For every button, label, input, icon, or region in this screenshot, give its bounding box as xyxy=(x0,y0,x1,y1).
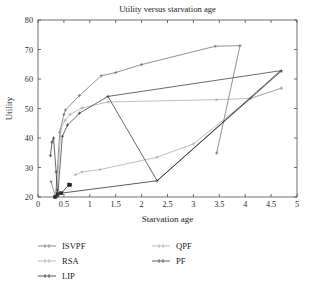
y-tick-label: 80 xyxy=(25,16,33,25)
series-line-rsa xyxy=(57,88,282,197)
chart-legend: ISVPFQPFRSAPFLIP xyxy=(38,241,192,281)
data-point-marker xyxy=(140,63,143,66)
legend-label-isvpf: ISVPF xyxy=(62,241,86,251)
data-point-marker xyxy=(156,156,159,159)
x-tick-label: 1 xyxy=(88,200,92,209)
x-tick-label: 2.5 xyxy=(162,200,172,209)
data-point-marker xyxy=(80,106,83,109)
data-point-marker xyxy=(238,44,241,47)
data-point-marker xyxy=(215,98,218,101)
x-tick-label: 5 xyxy=(295,200,299,209)
data-point-marker xyxy=(114,71,117,74)
series-branch-pf-upper-branch xyxy=(108,71,280,97)
data-point-marker xyxy=(214,45,217,48)
series-line-pf xyxy=(50,71,281,196)
data-point-marker xyxy=(215,151,218,154)
data-point-marker xyxy=(61,135,64,138)
legend-item-isvpf[interactable]: ISVPF xyxy=(38,241,86,251)
series-branch-lip-lower-branch xyxy=(61,71,280,193)
x-tick-label: 0.5 xyxy=(59,200,69,209)
legend-item-rsa[interactable]: RSA xyxy=(38,256,80,266)
legend-label-lip: LIP xyxy=(62,271,75,281)
chart-title: Utility versus starvation age xyxy=(119,4,216,14)
y-axis-title: Utility xyxy=(4,96,14,120)
data-point-marker xyxy=(62,113,65,116)
data-point-marker xyxy=(63,119,66,122)
y-tick-label: 30 xyxy=(25,164,33,173)
x-tick-label: 1.5 xyxy=(111,200,121,209)
x-tick-label: 2 xyxy=(140,200,144,209)
y-tick-label: 20 xyxy=(25,193,33,202)
legend-item-qpf[interactable]: QPF xyxy=(152,241,192,251)
y-tick-label: 60 xyxy=(25,75,33,84)
data-point-marker xyxy=(53,195,56,198)
x-tick-label: 4.5 xyxy=(266,200,276,209)
series-rsa xyxy=(55,87,283,199)
data-point-marker xyxy=(52,136,55,139)
data-point-marker xyxy=(50,141,53,144)
series-line-isvpf xyxy=(51,46,240,197)
x-tick-label: 3 xyxy=(191,200,195,209)
legend-item-pf[interactable]: PF xyxy=(152,256,186,266)
y-tick-label: 50 xyxy=(25,105,33,114)
x-axis-title: Starvation age xyxy=(142,214,194,224)
y-tick-label: 40 xyxy=(25,134,33,143)
y-tick-label: 70 xyxy=(25,46,33,55)
x-tick-label: 0 xyxy=(36,200,40,209)
chart-figure: 00.511.522.533.544.5520304050607080 Util… xyxy=(0,0,311,287)
legend-label-pf: PF xyxy=(176,256,186,266)
series-pf xyxy=(49,69,283,198)
data-point-marker xyxy=(69,183,72,186)
x-tick-label: 3.5 xyxy=(214,200,224,209)
plot-frame xyxy=(38,20,297,197)
data-point-marker xyxy=(49,154,52,157)
data-point-marker xyxy=(106,100,109,103)
axes: 00.511.522.533.544.5520304050607080 xyxy=(25,16,299,209)
data-point-marker xyxy=(49,180,52,183)
legend-label-rsa: RSA xyxy=(62,256,80,266)
chart-labels: Utility versus starvation ageStarvation … xyxy=(4,4,216,224)
series-qpf xyxy=(74,87,283,177)
data-point-marker xyxy=(74,173,77,176)
data-series xyxy=(49,44,283,199)
data-point-marker xyxy=(59,128,62,131)
x-tick-label: 4 xyxy=(243,200,247,209)
data-point-marker xyxy=(99,168,102,171)
series-isvpf xyxy=(49,44,241,199)
data-point-marker xyxy=(80,170,83,173)
legend-item-lip[interactable]: LIP xyxy=(38,271,75,281)
utility-vs-starvation-age-chart: 00.511.522.533.544.5520304050607080 Util… xyxy=(0,0,311,287)
legend-label-qpf: QPF xyxy=(176,241,192,251)
